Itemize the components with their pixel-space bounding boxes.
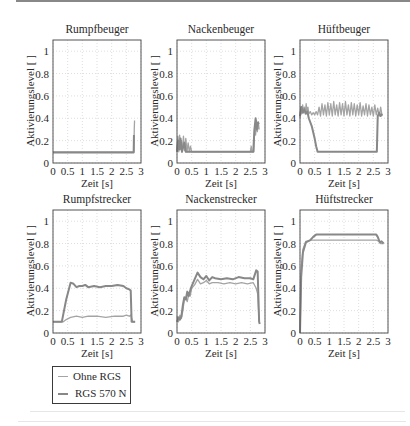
x-axis-label: Zeit [s] [53,347,141,360]
legend-line-swatch [58,376,68,377]
y-tick-label: 1 [168,45,174,57]
plot-area [300,210,388,333]
legend-item-ohne-rgs: Ohne RGS [53,369,130,384]
series-line-rgs-570-n [177,118,259,152]
panel-nackenstrecker: Nackenstrecker Aktivierungslevel [ ] Zei… [177,210,265,333]
y-tick-label: 0.4 [159,282,173,294]
y-tick-label: 0.6 [35,260,49,272]
plot-area [300,40,388,163]
y-tick-label: 0.2 [159,305,173,317]
y-tick-label: 0.4 [282,112,296,124]
y-tick-label: 0.8 [35,68,49,80]
y-tick-label: 0.4 [159,112,173,124]
x-tick-label: 3 [255,335,275,347]
x-axis-label: Zeit [s] [300,177,388,190]
y-tick-label: 0.2 [35,305,49,317]
series-line-ohne-rgs [177,121,259,152]
x-axis-label: Zeit [s] [177,177,265,190]
legend: Ohne RGS RGS 570 N [52,366,131,404]
y-tick-label: 0.8 [282,68,296,80]
panel-hueftstrecker: Hüftstrecker Aktivierungslevel [ ] Zeit … [300,210,388,333]
legend-label: Ohne RGS [73,369,121,384]
y-tick-label: 0.6 [159,90,173,102]
panel-hueftbeuger: Hüftbeuger Aktivierungslevel [ ] Zeit [s… [300,40,388,163]
y-tick-label: 0.6 [282,260,296,272]
y-tick-label: 0.8 [159,68,173,80]
series-line-rgs-570-n [177,270,260,324]
plot-area [177,210,265,333]
y-tick-label: 0.8 [35,238,49,250]
series-line-ohne-rgs [53,121,135,152]
plot-area [53,40,141,163]
y-tick-label: 0.2 [159,135,173,147]
x-axis-label: Zeit [s] [53,177,141,190]
y-tick-label: 0.8 [159,238,173,250]
y-tick-label: 0.4 [35,112,49,124]
x-tick-label: 3 [131,335,151,347]
y-tick-label: 1 [44,215,50,227]
legend-item-rgs-570n: RGS 570 N [53,386,130,401]
x-tick-label: 3 [378,165,398,177]
panel-rumpfbeuger: Rumpfbeuger Aktivierungslevel [ ] Zeit [… [53,40,141,163]
bleed-through-text [30,411,405,412]
chart-title: Hüftbeuger [270,22,410,36]
panel-rumpfstrecker: Rumpfstrecker Aktivierungslevel [ ] Zeit… [53,210,141,333]
x-axis-label: Zeit [s] [177,347,265,360]
series-line-ohne-rgs [300,102,382,119]
y-tick-label: 0.2 [35,135,49,147]
y-tick-label: 0.2 [282,135,296,147]
x-axis-label: Zeit [s] [300,347,388,360]
y-tick-label: 1 [44,45,50,57]
y-tick-label: 0.6 [159,260,173,272]
series-line-rgs-570-n [53,135,134,152]
y-tick-label: 0.4 [282,282,296,294]
legend-label: RGS 570 N [75,386,126,401]
x-tick-label: 3 [131,165,151,177]
legend-line-swatch [58,393,68,395]
y-tick-label: 0.6 [282,90,296,102]
series-line-ohne-rgs [177,279,259,321]
y-tick-label: 1 [291,45,297,57]
y-tick-label: 0.6 [35,90,49,102]
plot-area [53,210,141,333]
y-tick-label: 0.4 [35,282,49,294]
bleed-through-text [18,421,406,422]
y-tick-label: 0.8 [282,238,296,250]
chart-title: Hüftstrecker [270,192,410,206]
x-tick-label: 3 [378,335,398,347]
series-line-ohne-rgs [53,315,135,322]
page-edge-line [16,0,410,2]
x-tick-label: 3 [255,165,275,177]
y-tick-label: 1 [291,215,297,227]
series-line-ohne-rgs [300,240,384,333]
y-tick-label: 0.2 [282,305,296,317]
series-line-rgs-570-n [300,235,384,333]
plot-area [177,40,265,163]
panel-nackenbeuger: Nackenbeuger Aktivierungslevel [ ] Zeit … [177,40,265,163]
y-tick-label: 1 [168,215,174,227]
